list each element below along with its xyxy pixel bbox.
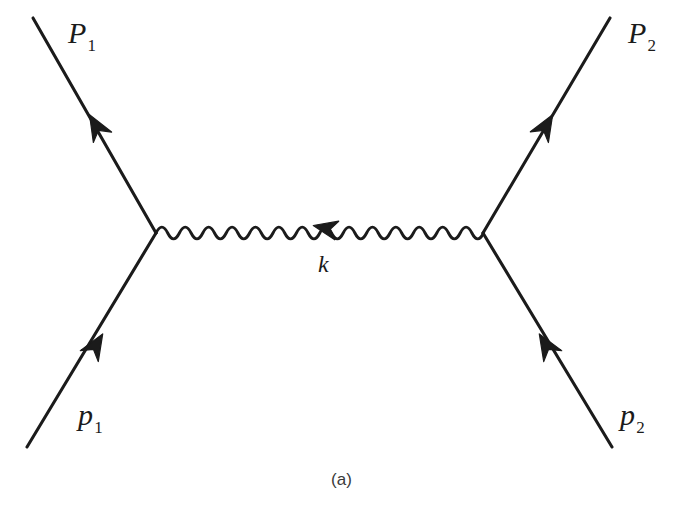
label-incoming-right-subscript: 2 bbox=[636, 418, 645, 437]
label-outgoing-right-subscript: 2 bbox=[648, 36, 657, 55]
label-incoming-right-momentum: p2 bbox=[620, 400, 644, 432]
label-outgoing-left-subscript: 1 bbox=[88, 36, 97, 55]
outgoing-left-fermion-arrowhead-icon bbox=[80, 110, 111, 143]
label-incoming-right-base: p bbox=[620, 398, 635, 431]
label-photon-momentum: k bbox=[318, 252, 329, 276]
label-outgoing-right-momentum: P2 bbox=[628, 18, 655, 50]
label-photon-base: k bbox=[318, 251, 329, 277]
label-outgoing-right-base: P bbox=[628, 16, 647, 49]
label-incoming-left-base: p bbox=[78, 398, 93, 431]
feynman-diagram-figure: P1 P2 p1 p2 k (a) bbox=[0, 0, 683, 522]
label-incoming-left-momentum: p1 bbox=[78, 400, 102, 432]
label-outgoing-left-base: P bbox=[68, 16, 87, 49]
label-outgoing-left-momentum: P1 bbox=[68, 18, 95, 50]
feynman-diagram-canvas bbox=[0, 0, 683, 522]
label-incoming-left-subscript: 1 bbox=[94, 418, 103, 437]
figure-caption: (a) bbox=[0, 470, 683, 490]
outgoing-right-fermion-arrowhead-icon bbox=[530, 109, 561, 142]
